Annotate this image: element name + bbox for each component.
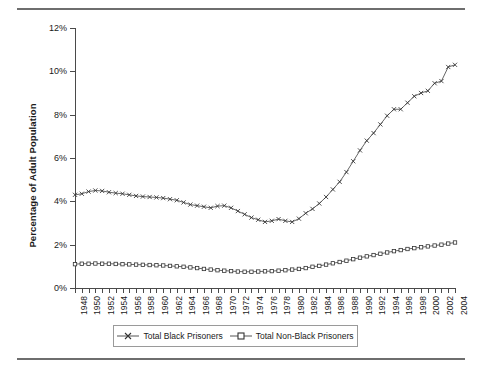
x-tick-label: 1960: [160, 296, 170, 315]
data-point-marker: [358, 148, 362, 152]
x-tick-mark: [163, 288, 164, 293]
data-point-marker: [236, 270, 239, 273]
x-tick-mark: [224, 288, 225, 293]
data-point-marker: [378, 122, 382, 126]
data-point-marker: [331, 262, 334, 265]
data-point-marker: [168, 264, 171, 267]
x-tick-mark: [258, 288, 259, 293]
legend-item-black-prisoners: Total Black Prisoners: [117, 331, 222, 341]
x-tick-mark: [204, 288, 205, 293]
x-tick-label: 1948: [79, 296, 89, 315]
data-point-marker: [257, 270, 260, 273]
plot-area: 0%2%4%6%8%10%12% 19481950195219541956195…: [75, 28, 455, 288]
data-point-marker: [236, 209, 240, 213]
x-tick-mark: [177, 288, 178, 293]
data-point-marker: [352, 257, 355, 260]
series-line: [75, 243, 455, 272]
x-tick-label: 1990: [364, 296, 374, 315]
data-point-marker: [405, 101, 409, 105]
data-point-marker: [426, 245, 429, 248]
data-point-marker: [148, 263, 151, 266]
data-point-marker: [385, 114, 389, 118]
data-point-marker: [128, 263, 131, 266]
x-tick-mark: [109, 288, 110, 293]
legend-item-non-black-prisoners: Total Non-Black Prisoners: [230, 331, 354, 341]
x-tick-mark: [285, 288, 286, 293]
data-point-marker: [317, 201, 321, 205]
x-tick-label: 1956: [133, 296, 143, 315]
x-tick-label: 2000: [431, 296, 441, 315]
data-point-marker: [379, 252, 382, 255]
x-tick-mark: [340, 288, 341, 293]
data-point-marker: [94, 262, 97, 265]
data-point-marker: [453, 241, 456, 244]
data-point-marker: [338, 260, 341, 263]
x-tick-mark: [143, 288, 144, 293]
x-tick-mark: [89, 288, 90, 293]
data-point-marker: [141, 263, 144, 266]
x-tick-label: 1996: [404, 296, 414, 315]
x-tick-label: 2004: [459, 296, 469, 315]
data-point-marker: [250, 270, 253, 273]
data-point-marker: [344, 170, 348, 174]
legend-label-black-prisoners: Total Black Prisoners: [143, 331, 222, 341]
data-point-marker: [243, 212, 247, 216]
y-axis-title: Percentage of Adult Population: [27, 56, 38, 296]
series-plot: [75, 28, 455, 288]
x-tick-mark: [279, 288, 280, 293]
data-point-marker: [371, 131, 375, 135]
x-tick-mark: [448, 288, 449, 293]
data-point-marker: [392, 249, 395, 252]
x-tick-label: 1966: [201, 296, 211, 315]
x-tick-label: 1962: [174, 296, 184, 315]
x-tick-mark: [408, 288, 409, 293]
x-tick-mark: [380, 288, 381, 293]
data-point-marker: [310, 207, 314, 211]
x-tick-label: 1994: [391, 296, 401, 315]
x-tick-mark: [319, 288, 320, 293]
x-tick-mark: [313, 288, 314, 293]
x-tick-label: 1986: [336, 296, 346, 315]
data-point-marker: [372, 253, 375, 256]
data-point-marker: [182, 265, 185, 268]
x-tick-label: 1950: [92, 296, 102, 315]
data-point-marker: [413, 246, 416, 249]
data-point-marker: [385, 251, 388, 254]
data-point-marker: [365, 139, 369, 143]
x-tick-mark: [190, 288, 191, 293]
x-tick-mark: [184, 288, 185, 293]
x-tick-mark: [306, 288, 307, 293]
x-tick-mark: [428, 288, 429, 293]
x-tick-mark: [299, 288, 300, 293]
data-point-marker: [406, 247, 409, 250]
x-tick-mark: [156, 288, 157, 293]
x-tick-mark: [116, 288, 117, 293]
x-tick-label: 1984: [323, 296, 333, 315]
data-point-marker: [311, 265, 314, 268]
data-point-marker: [297, 267, 300, 270]
x-tick-label: 1988: [350, 296, 360, 315]
data-point-marker: [440, 243, 443, 246]
x-tick-mark: [82, 288, 83, 293]
data-point-marker: [304, 266, 307, 269]
x-tick-label: 1982: [309, 296, 319, 315]
x-tick-mark: [211, 288, 212, 293]
data-point-marker: [345, 259, 348, 262]
x-tick-mark: [360, 288, 361, 293]
x-tick-mark: [197, 288, 198, 293]
x-tick-label: 1970: [228, 296, 238, 315]
legend-label-non-black-prisoners: Total Non-Black Prisoners: [256, 331, 354, 341]
x-tick-mark: [346, 288, 347, 293]
x-tick-mark: [435, 288, 436, 293]
data-point-marker: [331, 187, 335, 191]
data-point-marker: [243, 270, 246, 273]
data-point-marker: [202, 267, 205, 270]
x-tick-label: 1958: [146, 296, 156, 315]
x-tick-mark: [374, 288, 375, 293]
x-tick-label: 1980: [296, 296, 306, 315]
x-tick-mark: [245, 288, 246, 293]
x-tick-mark: [326, 288, 327, 293]
x-tick-label: 1954: [119, 296, 129, 315]
x-tick-mark: [136, 288, 137, 293]
data-point-marker: [229, 269, 232, 272]
